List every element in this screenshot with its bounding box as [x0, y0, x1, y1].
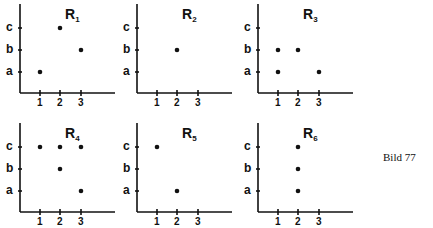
y-tick-label: a	[244, 65, 251, 77]
data-point	[79, 189, 84, 194]
x-tick-label: 3	[78, 98, 84, 108]
y-tick-label: a	[244, 184, 251, 196]
y-tick-label: c	[123, 21, 130, 33]
data-point	[276, 48, 281, 53]
figure-label: Bild 77	[383, 151, 416, 163]
data-point	[58, 26, 63, 31]
y-tick-label: c	[123, 140, 130, 152]
panel-title: R5	[182, 126, 197, 146]
x-tick-label: 3	[195, 217, 201, 227]
x-tick-label: 3	[316, 98, 322, 108]
relation-panel-r6: abc123R6	[238, 119, 358, 228]
data-point	[317, 70, 322, 75]
panel-title: R4	[65, 126, 80, 146]
plot-area	[0, 0, 120, 110]
panel-title: R6	[303, 126, 318, 146]
y-tick-label: b	[123, 43, 130, 55]
data-point	[58, 167, 63, 172]
x-tick-label: 1	[154, 217, 160, 227]
y-tick-label: b	[6, 162, 13, 174]
y-tick-label: a	[6, 184, 13, 196]
data-point	[276, 70, 281, 75]
plot-area	[238, 0, 358, 110]
plot-area	[238, 119, 358, 228]
data-point	[58, 145, 63, 150]
y-tick-label: b	[6, 43, 13, 55]
data-point	[296, 48, 301, 53]
data-point	[296, 167, 301, 172]
y-tick-label: c	[6, 140, 13, 152]
x-tick-label: 2	[295, 217, 301, 227]
data-point	[175, 48, 180, 53]
y-tick-label: b	[244, 162, 251, 174]
y-tick-label: a	[6, 65, 13, 77]
data-point	[175, 189, 180, 194]
y-tick-label: a	[123, 184, 130, 196]
x-tick-label: 2	[174, 217, 180, 227]
panel-title: R1	[65, 7, 80, 27]
data-point	[38, 145, 43, 150]
y-tick-label: b	[244, 43, 251, 55]
data-point	[296, 189, 301, 194]
plot-area	[0, 119, 120, 228]
x-tick-label: 1	[275, 217, 281, 227]
x-tick-label: 1	[37, 217, 43, 227]
x-tick-label: 2	[57, 98, 63, 108]
data-point	[155, 145, 160, 150]
x-tick-label: 1	[37, 98, 43, 108]
x-tick-label: 2	[174, 98, 180, 108]
y-tick-label: c	[6, 21, 13, 33]
data-point	[79, 48, 84, 53]
relation-panel-r2: abc123R2	[117, 0, 237, 110]
x-tick-label: 1	[154, 98, 160, 108]
y-tick-label: b	[123, 162, 130, 174]
panel-title: R3	[303, 7, 318, 27]
x-tick-label: 3	[78, 217, 84, 227]
x-tick-label: 2	[57, 217, 63, 227]
relation-panel-r5: abc123R5	[117, 119, 237, 228]
relation-panel-r4: abc123R4	[0, 119, 120, 228]
relation-panel-r3: abc123R3	[238, 0, 358, 110]
plot-area	[117, 119, 237, 228]
x-tick-label: 2	[295, 98, 301, 108]
y-tick-label: a	[123, 65, 130, 77]
plot-area	[117, 0, 237, 110]
y-tick-label: c	[244, 140, 251, 152]
x-tick-label: 1	[275, 98, 281, 108]
data-point	[38, 70, 43, 75]
relation-panel-r1: abc123R1	[0, 0, 120, 110]
y-tick-label: c	[244, 21, 251, 33]
panel-title: R2	[182, 7, 197, 27]
x-tick-label: 3	[195, 98, 201, 108]
data-point	[296, 145, 301, 150]
x-tick-label: 3	[316, 217, 322, 227]
